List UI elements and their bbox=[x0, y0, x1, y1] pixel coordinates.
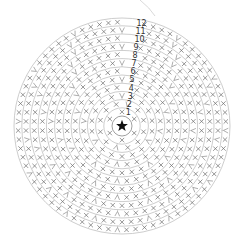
single-crochet bbox=[88, 206, 92, 210]
single-crochet bbox=[33, 110, 37, 114]
single-crochet bbox=[88, 169, 92, 173]
increase-spoke bbox=[74, 88, 75, 89]
increase-spoke bbox=[148, 197, 149, 199]
increase-stitch bbox=[74, 91, 79, 96]
increase-stitch bbox=[212, 75, 217, 79]
single-crochet bbox=[65, 119, 69, 123]
single-crochet bbox=[115, 69, 119, 73]
increase-stitch bbox=[169, 216, 173, 221]
single-crochet bbox=[53, 54, 57, 58]
increase-stitch bbox=[69, 148, 74, 152]
single-crochet bbox=[88, 79, 92, 83]
increase-stitch bbox=[172, 62, 177, 67]
increase-spoke bbox=[55, 164, 56, 165]
single-crochet bbox=[70, 101, 74, 105]
single-crochet bbox=[85, 92, 89, 96]
round-number-label: 11 bbox=[136, 27, 146, 36]
single-crochet bbox=[84, 53, 88, 57]
increase-spoke bbox=[37, 87, 39, 88]
single-crochet bbox=[60, 48, 64, 52]
single-crochet bbox=[135, 88, 139, 92]
increase-stitch bbox=[114, 162, 119, 167]
single-crochet bbox=[203, 76, 207, 80]
single-crochet bbox=[88, 188, 92, 192]
increase-stitch bbox=[31, 67, 36, 72]
increase-stitch bbox=[65, 172, 70, 177]
single-crochet bbox=[173, 138, 177, 142]
single-crochet bbox=[72, 216, 76, 220]
single-crochet bbox=[64, 36, 68, 40]
increase-stitch bbox=[146, 140, 151, 144]
single-crochet bbox=[202, 92, 206, 96]
single-crochet bbox=[29, 92, 33, 96]
magic-ring bbox=[112, 116, 132, 136]
single-crochet bbox=[151, 147, 155, 151]
single-crochet bbox=[66, 77, 70, 81]
single-crochet bbox=[159, 163, 163, 167]
single-crochet bbox=[52, 101, 56, 105]
single-crochet bbox=[80, 220, 84, 224]
increase-stitch bbox=[63, 212, 68, 217]
increase-stitch bbox=[174, 75, 179, 80]
increase-stitch bbox=[41, 109, 46, 114]
single-crochet bbox=[198, 180, 202, 184]
single-crochet bbox=[198, 68, 202, 72]
single-crochet bbox=[56, 92, 60, 96]
increase-stitch bbox=[24, 138, 29, 143]
single-crochet bbox=[136, 140, 140, 144]
single-crochet bbox=[24, 128, 28, 132]
single-crochet bbox=[60, 164, 64, 168]
single-crochet bbox=[88, 60, 92, 64]
single-crochet bbox=[203, 172, 207, 176]
single-crochet bbox=[97, 192, 101, 196]
single-crochet bbox=[139, 147, 143, 151]
single-crochet bbox=[164, 209, 168, 213]
single-crochet bbox=[183, 41, 187, 45]
single-crochet bbox=[120, 171, 124, 175]
single-crochet bbox=[50, 110, 54, 114]
increase-stitch bbox=[120, 60, 125, 65]
single-crochet bbox=[139, 81, 143, 85]
single-crochet bbox=[190, 138, 194, 142]
single-crochet bbox=[18, 146, 22, 150]
single-crochet bbox=[24, 84, 28, 88]
single-crochet bbox=[77, 170, 81, 174]
single-crochet bbox=[179, 101, 183, 105]
single-crochet bbox=[166, 129, 170, 133]
increase-spoke bbox=[163, 112, 165, 113]
single-crochet bbox=[219, 93, 223, 97]
single-crochet bbox=[81, 85, 85, 89]
round-number-label: 3 bbox=[128, 92, 133, 101]
single-crochet bbox=[80, 183, 84, 187]
single-crochet bbox=[80, 45, 84, 49]
single-crochet bbox=[143, 56, 147, 60]
single-crochet bbox=[125, 179, 129, 183]
single-crochet bbox=[205, 147, 209, 151]
single-crochet bbox=[51, 84, 55, 88]
single-crochet bbox=[56, 155, 60, 159]
single-crochet bbox=[16, 128, 20, 132]
increase-stitch bbox=[205, 100, 210, 105]
yarn-tail bbox=[140, 0, 155, 16]
single-crochet bbox=[164, 38, 168, 42]
single-crochet bbox=[138, 201, 142, 205]
increase-stitch bbox=[173, 42, 178, 47]
single-crochet bbox=[138, 218, 142, 222]
single-crochet bbox=[120, 204, 124, 208]
single-crochet bbox=[61, 101, 65, 105]
increase-spoke bbox=[173, 80, 174, 81]
single-crochet bbox=[89, 100, 93, 104]
increase-spoke bbox=[168, 196, 169, 197]
increase-stitch bbox=[37, 91, 42, 95]
single-crochet bbox=[124, 212, 128, 216]
single-crochet bbox=[182, 110, 186, 114]
single-crochet bbox=[159, 85, 163, 89]
single-crochet bbox=[165, 92, 169, 96]
single-crochet bbox=[184, 92, 188, 96]
single-crochet bbox=[58, 110, 62, 114]
single-crochet bbox=[196, 54, 200, 58]
single-crochet bbox=[224, 119, 228, 123]
single-crochet bbox=[90, 119, 94, 123]
single-crochet bbox=[89, 25, 93, 29]
single-crochet bbox=[184, 171, 188, 175]
